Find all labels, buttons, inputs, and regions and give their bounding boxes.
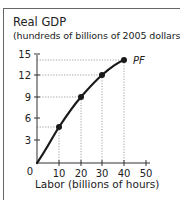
svg-text:3: 3: [25, 135, 31, 146]
data-point: [99, 72, 105, 78]
svg-text:6: 6: [25, 113, 31, 124]
svg-text:15: 15: [18, 49, 31, 60]
svg-text:12: 12: [18, 70, 31, 81]
data-point: [78, 94, 84, 100]
y-tick-labels: 3 6 9 12 15 0: [18, 49, 33, 177]
data-point: [56, 124, 62, 130]
x-axis-title: Labor (billions of hours): [35, 178, 159, 190]
svg-text:0: 0: [27, 166, 33, 177]
data-points: [56, 57, 127, 130]
chart-plot: 3 6 9 12 15 0 10 20 30 40 50 PF: [0, 0, 180, 200]
svg-text:9: 9: [25, 92, 31, 103]
pf-curve: [37, 60, 124, 163]
guide-lines: [37, 60, 124, 163]
axes: [34, 54, 150, 166]
curve-label-pf: PF: [133, 55, 145, 66]
data-point: [121, 57, 127, 63]
